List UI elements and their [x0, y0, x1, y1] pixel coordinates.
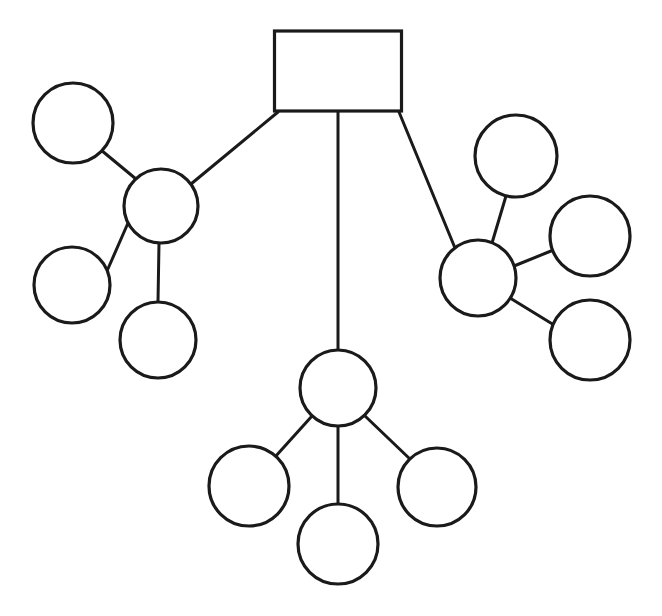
node-shape-circle-B3[interactable]: [398, 448, 476, 526]
edge-hubR-R2: [514, 251, 551, 266]
node-R2[interactable]: [550, 196, 630, 276]
edge-hubB-B3: [365, 416, 411, 460]
node-shape-circle-L3[interactable]: [120, 302, 196, 378]
edge-hubB-B1: [275, 416, 312, 457]
node-L3[interactable]: [120, 302, 196, 378]
node-shape-circle-hubL[interactable]: [124, 169, 198, 243]
node-shape-circle-R3[interactable]: [550, 300, 630, 380]
node-shape-circle-B1[interactable]: [209, 446, 289, 526]
node-L1[interactable]: [33, 83, 113, 163]
node-shape-circle-hubR[interactable]: [440, 240, 516, 316]
node-hubB[interactable]: [300, 350, 376, 426]
edge-hubL-L1: [101, 150, 136, 179]
node-root[interactable]: [275, 31, 402, 111]
node-L2[interactable]: [34, 247, 110, 323]
node-layer: [33, 31, 630, 584]
node-shape-circle-R2[interactable]: [550, 196, 630, 276]
node-R3[interactable]: [550, 300, 630, 380]
node-hubL[interactable]: [124, 169, 198, 243]
edge-hubL-L2: [107, 223, 128, 271]
edge-hubR-R3: [510, 298, 554, 325]
node-B3[interactable]: [398, 448, 476, 526]
node-shape-circle-L2[interactable]: [34, 247, 110, 323]
diagram-canvas: [0, 0, 662, 616]
node-B2[interactable]: [298, 504, 378, 584]
node-hubR[interactable]: [440, 240, 516, 316]
node-shape-circle-L1[interactable]: [33, 83, 113, 163]
node-shape-circle-R1[interactable]: [475, 115, 557, 197]
edge-hubL-L3: [158, 243, 159, 302]
node-B1[interactable]: [209, 446, 289, 526]
diagram-svg: [0, 0, 662, 616]
node-shape-circle-hubB[interactable]: [300, 350, 376, 426]
edge-root-hubR: [399, 112, 455, 248]
node-shape-circle-B2[interactable]: [298, 504, 378, 584]
edge-root-hubL: [191, 112, 278, 184]
node-shape-rect-root[interactable]: [275, 31, 402, 111]
edge-hubR-R1: [492, 196, 506, 243]
node-R1[interactable]: [475, 115, 557, 197]
